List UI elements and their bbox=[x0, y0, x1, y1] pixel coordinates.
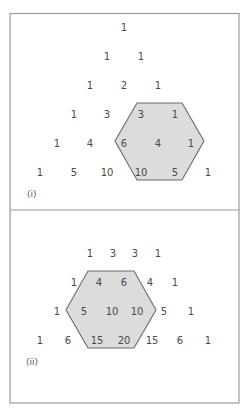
pascal-number: 1 bbox=[54, 306, 60, 317]
pascal-triangle-diagram: 11112113311464115101051(i) 1331146411510… bbox=[0, 0, 247, 409]
pascal-number: 5 bbox=[161, 306, 167, 317]
pascal-number: 1 bbox=[87, 80, 93, 91]
pascal-number: 4 bbox=[147, 277, 153, 288]
pascal-number: 6 bbox=[121, 277, 127, 288]
pascal-number: 5 bbox=[71, 167, 77, 178]
pascal-number: 1 bbox=[205, 335, 211, 346]
pascal-number: 1 bbox=[87, 248, 93, 259]
pascal-number: 4 bbox=[87, 138, 93, 149]
pascal-number: 1 bbox=[188, 138, 194, 149]
pascal-number: 1 bbox=[37, 167, 43, 178]
pascal-number: 6 bbox=[65, 335, 71, 346]
pascal-number: 1 bbox=[138, 51, 144, 62]
pascal-number: 1 bbox=[188, 306, 194, 317]
pascal-number: 1 bbox=[172, 277, 178, 288]
pascal-number: 3 bbox=[138, 109, 144, 120]
pascal-number: 20 bbox=[118, 335, 131, 346]
pascal-number: 4 bbox=[155, 138, 161, 149]
pascal-number: 3 bbox=[132, 248, 138, 259]
pascal-number: 10 bbox=[135, 167, 148, 178]
pascal-number: 5 bbox=[172, 167, 178, 178]
pascal-number: 1 bbox=[205, 167, 211, 178]
pascal-number: 6 bbox=[177, 335, 183, 346]
pascal-number: 4 bbox=[96, 277, 102, 288]
pascal-number: 2 bbox=[121, 80, 127, 91]
pascal-number: 15 bbox=[91, 335, 104, 346]
pascal-number: 1 bbox=[172, 109, 178, 120]
pascal-number: 3 bbox=[110, 248, 116, 259]
pascal-number: 1 bbox=[71, 277, 77, 288]
pascal-number: 10 bbox=[131, 306, 144, 317]
pascal-number: 6 bbox=[121, 138, 127, 149]
pascal-number: 1 bbox=[104, 51, 110, 62]
pascal-number: 15 bbox=[146, 335, 159, 346]
pascal-number: 1 bbox=[37, 335, 43, 346]
pascal-number: 1 bbox=[121, 22, 127, 33]
pascal-number: 1 bbox=[54, 138, 60, 149]
panel-i: 11112113311464115101051(i) bbox=[27, 22, 211, 199]
pascal-number: 1 bbox=[155, 248, 161, 259]
panel-label: (ii) bbox=[26, 357, 38, 367]
pascal-number: 1 bbox=[71, 109, 77, 120]
pascal-number: 3 bbox=[104, 109, 110, 120]
pascal-number: 10 bbox=[101, 167, 114, 178]
pascal-number: 10 bbox=[106, 306, 119, 317]
pascal-number: 1 bbox=[155, 80, 161, 91]
panel-label: (i) bbox=[27, 189, 37, 199]
pascal-number: 5 bbox=[81, 306, 87, 317]
panel-ii: 133114641151010511615201561(ii) bbox=[26, 248, 211, 367]
